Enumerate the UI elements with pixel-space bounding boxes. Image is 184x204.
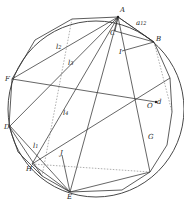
label-d: D (4, 124, 10, 131)
l3-sub: 3 (70, 60, 73, 66)
label-a: A (120, 7, 125, 14)
label-l3: l3 (68, 60, 73, 67)
label-o: O (147, 103, 153, 110)
label-l4: l4 (63, 110, 68, 117)
label-c: C (110, 30, 115, 37)
label-g: G (148, 134, 154, 141)
label-i: I (119, 49, 122, 56)
circumcircle (8, 21, 184, 197)
label-f: F (5, 76, 10, 83)
label-b: B (156, 36, 161, 43)
a12-sub: 12 (140, 20, 146, 26)
l2-sub: 2 (58, 44, 61, 50)
label-h: H (26, 166, 32, 173)
label-a12: a12 (136, 20, 147, 27)
l1-sub: 1 (35, 143, 38, 149)
geometry-diagram: A B C I F O d D H J G E a12 l2 l3 l4 l1 (0, 0, 184, 204)
label-j: J (60, 150, 63, 157)
label-l2: l2 (56, 44, 61, 51)
label-e: E (67, 194, 72, 201)
l4-sub: 4 (65, 110, 68, 116)
label-d-small: d (157, 99, 161, 106)
label-l1: l1 (33, 143, 38, 150)
vertex-a-dot (117, 16, 119, 18)
